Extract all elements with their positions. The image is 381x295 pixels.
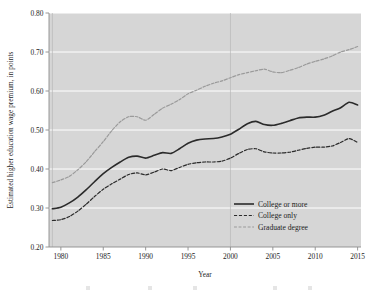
y-tick-label-0.8: 0.80 <box>31 9 44 18</box>
x-tick-label-1990: 1990 <box>138 252 153 261</box>
x-axis-ticks <box>61 247 358 251</box>
legend-label-college-only: College only <box>258 211 297 220</box>
scan-artifact-mark-1 <box>148 286 152 290</box>
x-tick-label-1980: 1980 <box>53 252 68 261</box>
scan-artifact-mark-4 <box>308 286 312 290</box>
x-axis-tick-labels: 19801985199019952000200520102015 <box>53 252 365 261</box>
scan-artifact-mark-2 <box>193 286 197 290</box>
y-axis-tick-labels: 0.200.300.400.500.600.700.80 <box>31 9 44 252</box>
x-tick-label-2000: 2000 <box>223 252 238 261</box>
y-axis-ticks <box>46 13 50 247</box>
x-tick-label-2010: 2010 <box>308 252 323 261</box>
legend-label-graduate-degree: Graduate degree <box>258 223 309 232</box>
x-axis-title: Year <box>198 271 212 279</box>
y-tick-label-0.5: 0.50 <box>31 126 44 135</box>
x-tick-label-2015: 2015 <box>350 252 365 261</box>
x-tick-label-2005: 2005 <box>265 252 280 261</box>
scan-artifact-mark-0 <box>86 286 90 290</box>
line-chart: 0.200.300.400.500.600.700.80 19801985199… <box>0 0 381 295</box>
y-tick-label-0.2: 0.20 <box>31 243 44 252</box>
y-tick-label-0.3: 0.30 <box>31 204 44 213</box>
y-tick-label-0.7: 0.70 <box>31 48 44 57</box>
legend-label-college-or-more: College or more <box>258 200 308 209</box>
y-tick-label-0.6: 0.60 <box>31 87 44 96</box>
y-tick-label-0.4: 0.40 <box>31 165 44 174</box>
x-tick-label-1995: 1995 <box>181 252 196 261</box>
y-axis-title: Estimated higher education wage premium,… <box>7 51 15 208</box>
x-tick-label-1985: 1985 <box>96 252 111 261</box>
page-scan-artifacts <box>86 286 312 290</box>
scan-artifact-mark-3 <box>273 286 277 290</box>
chart-figure: 0.200.300.400.500.600.700.80 19801985199… <box>0 0 381 295</box>
